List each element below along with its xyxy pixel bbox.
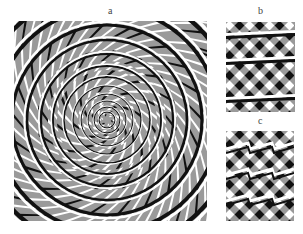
panel-b-label: b (258, 6, 263, 16)
panel-a-spiral (14, 21, 207, 221)
panel-b-tilted-bands (226, 22, 295, 112)
panel-a-label: a (108, 6, 112, 16)
panel-c-zigzag-bands (226, 131, 294, 221)
panel-c-label: c (258, 116, 262, 126)
